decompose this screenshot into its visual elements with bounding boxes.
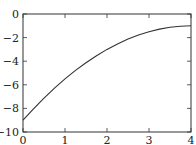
y-tick-label: −10 — [0, 126, 19, 139]
y-axis-labels: 0−2−4−6−8−10 — [0, 8, 19, 139]
x-tick-label: 1 — [62, 134, 69, 145]
axes-frame — [23, 14, 191, 132]
axis-ticks — [23, 14, 191, 132]
x-tick-label: 2 — [104, 134, 111, 145]
line-chart: 01234 0−2−4−6−8−10 — [0, 0, 196, 145]
x-tick-label: 4 — [188, 134, 195, 145]
x-axis-labels: 01234 — [20, 134, 195, 145]
y-tick-label: −4 — [3, 55, 19, 68]
y-tick-label: −2 — [3, 32, 19, 45]
y-tick-label: −8 — [3, 102, 19, 115]
x-tick-label: 3 — [146, 134, 153, 145]
y-tick-label: 0 — [12, 8, 19, 21]
y-tick-label: −6 — [3, 79, 19, 92]
x-tick-label: 0 — [20, 134, 27, 145]
data-line — [23, 26, 191, 120]
